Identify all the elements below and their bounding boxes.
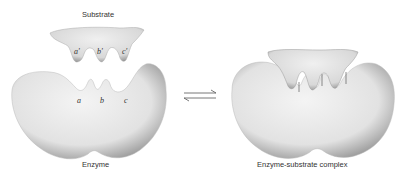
substrate-site-c: c' <box>122 47 127 56</box>
substrate-label: Substrate <box>82 10 114 19</box>
enzyme-shape <box>12 64 167 159</box>
equilibrium-arrows-icon <box>184 90 216 101</box>
enzyme-site-a: a <box>77 96 81 105</box>
enzyme-site-c: c <box>124 96 128 105</box>
substrate-site-a: a' <box>74 47 80 56</box>
complex-label: Enzyme-substrate complex <box>257 160 347 169</box>
enzyme-label: Enzyme <box>82 160 109 169</box>
enzyme-site-b: b <box>100 96 104 105</box>
substrate-site-b: b' <box>97 47 103 56</box>
substrate-shape <box>50 27 144 62</box>
